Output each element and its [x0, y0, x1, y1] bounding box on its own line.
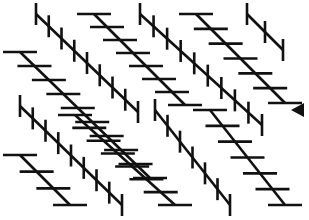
diagonal-line	[20, 155, 70, 205]
diagonal-lines-group	[3, 3, 302, 216]
zollner-illusion-figure	[0, 0, 309, 220]
diagonal-line	[140, 14, 262, 125]
left-pointing-triangle-icon	[291, 103, 304, 117]
